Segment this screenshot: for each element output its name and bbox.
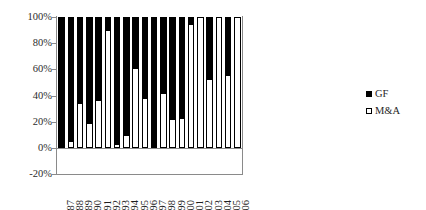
y-axis-labels: 100%80%60%40%20%0%-20% <box>0 0 52 210</box>
y-axis-tick-label: -20% <box>4 169 52 179</box>
bar-segment-gf <box>179 17 186 118</box>
bar-segment-gf <box>160 17 167 93</box>
legend-swatch-icon <box>366 91 372 97</box>
bar-column <box>58 17 65 148</box>
plot-right-border <box>242 16 243 175</box>
bar-segment-ma <box>188 24 195 148</box>
bar-segment-gf <box>188 17 195 24</box>
bar-column <box>114 17 121 148</box>
y-axis-tick-label: 60% <box>4 64 52 74</box>
bar-segment-gf <box>68 17 75 141</box>
bar-segment-gf <box>225 17 232 75</box>
bar-segment-gf <box>132 17 139 68</box>
bar-segment-ma <box>68 141 75 148</box>
bar-column <box>77 17 84 148</box>
bar-segment-ma <box>114 144 121 148</box>
bar-segment-gf <box>142 17 149 98</box>
bar-series-container <box>57 17 242 148</box>
bar-column <box>132 17 139 148</box>
legend-label: M&A <box>375 105 400 116</box>
bar-column <box>188 17 195 148</box>
bar-segment-ma <box>86 123 93 148</box>
bar-column <box>105 17 112 148</box>
bar-column <box>160 17 167 148</box>
bar-segment-gf <box>169 17 176 119</box>
legend-item-ma: M&A <box>366 102 400 119</box>
bar-column <box>86 17 93 148</box>
y-axis-tick-label: 40% <box>4 91 52 101</box>
stacked-bar-chart: 100%80%60%40%20%0%-20% 19871988198919901… <box>0 0 426 210</box>
bar-column <box>68 17 75 148</box>
bar-segment-gf <box>151 17 158 148</box>
bar-segment-ma <box>225 75 232 148</box>
bar-column <box>216 17 223 148</box>
x-axis-labels: 1987198819891990199119921993199419951996… <box>57 150 242 202</box>
bar-column <box>142 17 149 148</box>
y-axis-tick-label: 0% <box>4 143 52 153</box>
zero-baseline <box>56 148 243 149</box>
bar-segment-ma <box>123 135 130 148</box>
bar-segment-ma <box>77 103 84 148</box>
bar-segment-gf <box>86 17 93 123</box>
bar-segment-gf <box>114 17 121 144</box>
bar-column <box>169 17 176 148</box>
bar-segment-ma <box>216 17 223 148</box>
bar-segment-ma <box>169 119 176 148</box>
bar-segment-ma <box>197 17 204 148</box>
bar-column <box>95 17 102 148</box>
bar-segment-gf <box>123 17 130 135</box>
bar-column <box>151 17 158 148</box>
bar-segment-ma <box>132 68 139 148</box>
bar-segment-gf <box>95 17 102 100</box>
bar-segment-ma <box>142 98 149 148</box>
bar-segment-ma <box>206 79 213 148</box>
legend-label: GF <box>375 88 388 99</box>
bar-column <box>234 17 241 148</box>
bar-column <box>206 17 213 148</box>
legend-swatch-icon <box>366 108 372 114</box>
bar-segment-gf <box>206 17 213 79</box>
bar-segment-gf <box>58 17 65 148</box>
bar-segment-ma <box>160 93 167 148</box>
x-axis-tick-label: 2006 <box>241 200 250 210</box>
bar-segment-gf <box>105 17 112 30</box>
y-axis-tick-label: 100% <box>4 12 52 22</box>
bar-column <box>197 17 204 148</box>
bar-segment-gf <box>77 17 84 103</box>
bar-segment-ma <box>179 118 186 148</box>
bar-column <box>123 17 130 148</box>
chart-legend: GFM&A <box>366 85 400 119</box>
bar-segment-ma <box>105 30 112 148</box>
bar-segment-ma <box>95 100 102 148</box>
bar-column <box>179 17 186 148</box>
y-axis-tick-label: 20% <box>4 117 52 127</box>
bar-segment-ma <box>234 17 241 148</box>
bar-column <box>225 17 232 148</box>
y-axis-tick-label: 80% <box>4 38 52 48</box>
legend-item-gf: GF <box>366 85 400 102</box>
